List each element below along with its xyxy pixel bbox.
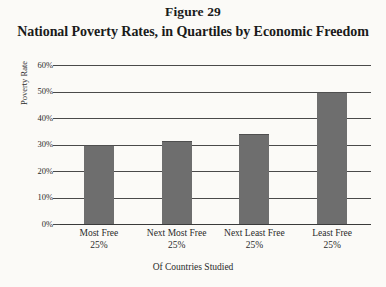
y-axis-tick-label: 30%	[29, 140, 53, 149]
bar	[239, 134, 269, 224]
y-axis-tick-mark	[53, 92, 60, 93]
bar	[84, 145, 114, 225]
y-axis-tick-label: 40%	[29, 114, 53, 123]
figure-number: Figure 29	[0, 4, 386, 20]
y-axis-tick-label: 60%	[29, 61, 53, 70]
x-axis-title: Of Countries Studied	[0, 262, 386, 272]
y-axis-tick-mark	[53, 145, 60, 146]
x-label-line-1: Least Free	[293, 227, 371, 239]
figure-container: Figure 29 National Poverty Rates, in Qua…	[0, 0, 386, 287]
gridline	[60, 224, 371, 225]
x-axis-category-label: Next Most Free25%	[138, 227, 216, 251]
x-axis-category-label: Next Least Free25%	[216, 227, 294, 251]
x-label-line-2: 25%	[60, 239, 138, 251]
plot-area	[60, 65, 371, 224]
x-label-line-1: Most Free	[60, 227, 138, 239]
x-axis-category-label: Least Free25%	[293, 227, 371, 251]
gridline	[60, 65, 371, 66]
figure-title: National Poverty Rates, in Quartiles by …	[0, 24, 386, 40]
bar	[162, 141, 192, 224]
y-axis-tick-mark	[53, 198, 60, 199]
y-axis-tick-label: 10%	[29, 193, 53, 202]
x-label-line-1: Next Most Free	[138, 227, 216, 239]
bar	[317, 92, 347, 225]
y-axis-tick-mark	[53, 65, 60, 66]
y-axis-tick-mark	[53, 118, 60, 119]
x-label-line-2: 25%	[216, 239, 294, 251]
y-axis-tick-label: 20%	[29, 167, 53, 176]
x-label-line-2: 25%	[138, 239, 216, 251]
x-label-line-1: Next Least Free	[216, 227, 294, 239]
y-axis-tick-mark	[53, 171, 60, 172]
y-axis-tick-labels: 60%50%40%30%20%10%0%	[25, 65, 53, 224]
y-axis-tick-label: 50%	[29, 87, 53, 96]
x-axis-category-label: Most Free25%	[60, 227, 138, 251]
y-axis-tick-label: 0%	[29, 220, 53, 229]
x-label-line-2: 25%	[293, 239, 371, 251]
y-axis-tick-mark	[53, 224, 60, 225]
x-axis-category-labels: Most Free25%Next Most Free25%Next Least …	[60, 227, 371, 259]
